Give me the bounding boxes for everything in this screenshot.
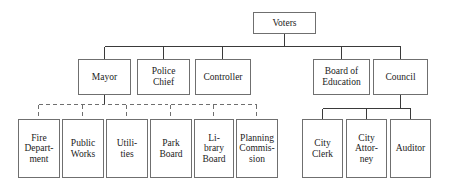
node-planning-commission[interactable]: Planning Commis- sion	[236, 119, 278, 178]
node-city-attorney-label: City Attor- ney	[354, 133, 379, 165]
node-city-clerk[interactable]: City Clerk	[302, 119, 343, 178]
node-controller-label: Controller	[202, 72, 243, 83]
node-library-board[interactable]: Li- brary Board	[194, 119, 234, 178]
node-mayor[interactable]: Mayor	[78, 59, 131, 95]
node-mayor-label: Mayor	[91, 72, 118, 83]
node-city-clerk-label: City Clerk	[311, 138, 334, 159]
node-utilities[interactable]: Utili- ties	[106, 119, 148, 178]
node-board-of-education-label: Board of Education	[321, 66, 362, 87]
node-fire-department[interactable]: Fire Depart- ment	[18, 119, 60, 178]
node-park-board-label: Park Board	[158, 138, 183, 159]
node-library-board-label: Li- brary Board	[201, 133, 226, 165]
node-board-of-education[interactable]: Board of Education	[313, 59, 370, 95]
node-controller[interactable]: Controller	[195, 59, 251, 95]
node-police-chief[interactable]: Police Chief	[137, 59, 190, 95]
node-council[interactable]: Council	[373, 59, 428, 95]
node-council-label: Council	[384, 72, 416, 83]
node-park-board[interactable]: Park Board	[150, 119, 192, 178]
node-public-works[interactable]: Public Works	[62, 119, 104, 178]
node-auditor-label: Auditor	[395, 143, 427, 154]
node-utilities-label: Utili- ties	[116, 138, 139, 159]
node-city-attorney[interactable]: City Attor- ney	[346, 119, 387, 178]
node-voters[interactable]: Voters	[253, 12, 316, 34]
node-police-chief-label: Police Chief	[151, 66, 177, 87]
node-auditor[interactable]: Auditor	[390, 119, 431, 178]
node-planning-commission-label: Planning Commis- sion	[238, 133, 275, 165]
node-voters-label: Voters	[271, 18, 297, 29]
node-public-works-label: Public Works	[70, 138, 97, 159]
org-chart: Voters Mayor Police Chief Controller Boa…	[0, 0, 449, 183]
node-fire-department-label: Fire Depart- ment	[23, 133, 54, 165]
